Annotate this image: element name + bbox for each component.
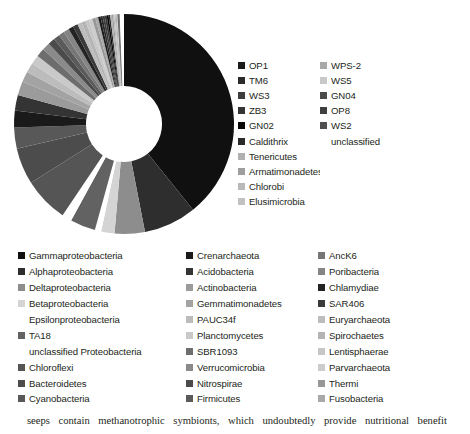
legend-swatch-icon <box>18 332 25 339</box>
legend-item-label: Elusimicrobia <box>249 196 305 207</box>
legend-item-label: WS5 <box>331 75 352 86</box>
legend-swatch-icon <box>18 268 25 275</box>
legend-swatch-icon <box>238 168 245 175</box>
legend-swatch-icon <box>318 268 325 275</box>
legend-item-label: PAUC34f <box>197 314 236 325</box>
legend-item: Firmicutes <box>186 391 318 407</box>
legend-item-label: Parvarchaeota <box>329 362 390 373</box>
legend-item: Euryarchaeota <box>318 312 458 328</box>
legend-swatch-icon <box>318 252 325 259</box>
legend-item: SBR1093 <box>186 343 318 359</box>
legend-item: Poribacteria <box>318 264 458 280</box>
legend-swatch-icon <box>186 252 193 259</box>
legend-item: unclassified Proteobacteria <box>18 343 186 359</box>
legend-item: Armatimonadetes <box>238 164 320 179</box>
legend-item: Parvarchaeota <box>318 359 458 375</box>
legend-swatch-icon <box>18 395 25 402</box>
legend-item: Spirochaetes <box>318 327 458 343</box>
legend-item-label: Fusobacteria <box>329 393 383 404</box>
legend-item: SAR406 <box>318 296 458 312</box>
legend-item-label: unclassified Proteobacteria <box>29 346 142 357</box>
legend-swatch-icon <box>186 364 193 371</box>
legend-item-label: Planctomycetes <box>197 330 263 341</box>
legend-item-label: TA18 <box>29 330 51 341</box>
legend-item: Lentisphaerae <box>318 343 458 359</box>
legend-item-label: Chlorobi <box>249 181 284 192</box>
legend-item-label: Crenarchaeota <box>197 250 259 261</box>
legend-swatch-icon <box>186 316 193 323</box>
legend-swatch-icon <box>318 284 325 291</box>
donut-slice-group <box>14 14 234 234</box>
legend-upper-column-2: WPS-2WS5GN04OP8WS2unclassified <box>320 58 420 149</box>
legend-item: Tenericutes <box>238 149 320 164</box>
legend-item-label: Deltaproteobacteria <box>29 282 111 293</box>
donut-chart <box>8 8 240 240</box>
legend-item: Nitrospirae <box>186 375 318 391</box>
legend-swatch-icon <box>320 92 327 99</box>
legend-item-label: Lentisphaerae <box>329 346 389 357</box>
legend-swatch-icon <box>238 122 245 129</box>
legend-item: Gammaproteobacteria <box>18 248 186 264</box>
figure-panel: OP1TM6WS3ZB3GN02CaldithrixTenericutesArm… <box>0 0 470 434</box>
legend-swatch-icon <box>318 380 325 387</box>
legend-item: ZB3 <box>238 103 320 118</box>
legend-item-label: Epsilonproteobacteria <box>29 314 120 325</box>
legend-item: unclassified <box>320 133 420 148</box>
legend-swatch-icon <box>318 348 325 355</box>
legend-item-label: Tenericutes <box>249 151 297 162</box>
legend-item-label: Caldithrix <box>249 136 288 147</box>
legend-item-label: Nitrospirae <box>197 378 242 389</box>
legend-lower: GammaproteobacteriaAlphaproteobacteriaDe… <box>18 248 462 407</box>
legend-item-label: SAR406 <box>329 298 364 309</box>
legend-item: Planctomycetes <box>186 327 318 343</box>
legend-swatch-icon <box>318 395 325 402</box>
legend-swatch-icon <box>186 348 193 355</box>
legend-swatch-icon <box>238 92 245 99</box>
legend-swatch-icon <box>238 153 245 160</box>
legend-item-label: Thermi <box>329 378 358 389</box>
legend-item: GN04 <box>320 88 420 103</box>
legend-item-label: WPS-2 <box>331 60 361 71</box>
legend-swatch-icon <box>318 300 325 307</box>
legend-item-label: Armatimonadetes <box>249 166 320 177</box>
legend-swatch-icon <box>318 364 325 371</box>
legend-item: OP8 <box>320 103 420 118</box>
legend-item: WS5 <box>320 73 420 88</box>
legend-swatch-icon <box>238 107 245 114</box>
legend-swatch-icon <box>186 284 193 291</box>
legend-item-label: Alphaproteobacteria <box>29 266 113 277</box>
legend-item-label: WS3 <box>249 90 270 101</box>
legend-item: Caldithrix <box>238 133 320 148</box>
legend-item-label: Verrucomicrobia <box>197 362 265 373</box>
legend-item-label: TM6 <box>249 75 268 86</box>
legend-item-label: Poribacteria <box>329 266 379 277</box>
legend-item: Acidobacteria <box>186 264 318 280</box>
legend-swatch-icon <box>320 77 327 84</box>
legend-item: OP1 <box>238 58 320 73</box>
legend-item: Betaproteobacteria <box>18 296 186 312</box>
legend-swatch-icon <box>238 183 245 190</box>
legend-item-label: OP1 <box>249 60 268 71</box>
legend-swatch-icon <box>18 284 25 291</box>
legend-swatch-icon <box>186 332 193 339</box>
legend-swatch-icon <box>238 138 245 145</box>
legend-item-label: Chloroflexi <box>29 362 73 373</box>
legend-item: Chlamydiae <box>318 280 458 296</box>
caption-text: seeps contain methanotrophic symbionts, … <box>27 414 447 427</box>
legend-item: Alphaproteobacteria <box>18 264 186 280</box>
legend-item: WS3 <box>238 88 320 103</box>
legend-upper-column-1: OP1TM6WS3ZB3GN02CaldithrixTenericutesArm… <box>238 58 320 209</box>
legend-upper: OP1TM6WS3ZB3GN02CaldithrixTenericutesArm… <box>238 58 468 209</box>
legend-swatch-icon <box>18 300 25 307</box>
legend-swatch-icon <box>18 316 25 323</box>
legend-swatch-icon <box>238 62 245 69</box>
legend-swatch-icon <box>18 348 25 355</box>
legend-swatch-icon <box>18 380 25 387</box>
legend-item: Thermi <box>318 375 458 391</box>
legend-lower-column-3: AncK6PoribacteriaChlamydiaeSAR406Euryarc… <box>318 248 458 407</box>
legend-item: WPS-2 <box>320 58 420 73</box>
legend-item-label: Actinobacteria <box>197 282 256 293</box>
legend-item: Bacteroidetes <box>18 375 186 391</box>
legend-swatch-icon <box>186 380 193 387</box>
legend-item: Chlorobi <box>238 179 320 194</box>
